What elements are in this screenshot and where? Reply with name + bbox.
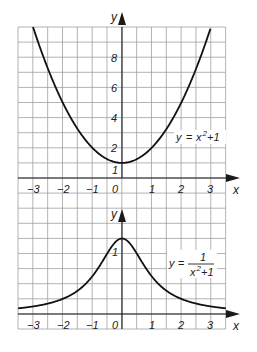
top-x-axis-arrow-icon [226, 174, 240, 182]
bottom-x-tick-m1: −1 [86, 319, 99, 331]
bottom-x-tick-3: 3 [207, 319, 214, 331]
bottom-y-tick-1: 1 [112, 246, 118, 258]
bottom-x-tick-0: 0 [112, 319, 119, 331]
top-y-tick-4: 4 [111, 112, 117, 124]
top-function-label: y = x 2 +1 [174, 129, 226, 144]
bottom-x-axis-arrow-icon [226, 310, 240, 318]
top-x-tick-0: 0 [112, 183, 119, 195]
bottom-y-axis-arrow-icon [118, 209, 126, 222]
bottom-fn-eq: = [178, 257, 184, 269]
bottom-fn-den-rest: +1 [201, 266, 214, 278]
top-fn-eq: = [186, 131, 192, 143]
top-y-tick-1: 1 [112, 164, 118, 176]
top-x-tick-3: 3 [207, 183, 214, 195]
top-chart: y x 8 6 4 2 1 −3 −2 −1 0 1 2 3 y = x 2 +… [18, 10, 240, 197]
bottom-fn-den-x: x [189, 266, 196, 278]
top-x-tick-1: 1 [149, 183, 155, 195]
top-x-tick-m2: −2 [57, 183, 70, 195]
bottom-x-tick-2: 2 [177, 319, 184, 331]
function-graphs-figure: y x 8 6 4 2 1 −3 −2 −1 0 1 2 3 y = x 2 +… [0, 0, 257, 352]
bottom-y-axis-label: y [110, 207, 118, 221]
top-x-tick-m3: −3 [27, 183, 40, 195]
top-y-axis-label: y [110, 10, 118, 24]
bottom-function-label: y = 1 x 2 +1 [167, 250, 217, 278]
top-x-axis-label: x [232, 183, 240, 197]
bottom-x-tick-1: 1 [149, 319, 155, 331]
bottom-x-tick-m3: −3 [27, 319, 40, 331]
bottom-x-tick-m2: −2 [57, 319, 70, 331]
top-x-tick-m1: −1 [86, 183, 99, 195]
top-y-axis-arrow-icon [118, 12, 126, 25]
top-fn-x: x [195, 131, 202, 143]
bottom-chart: y x 1 −3 −2 −1 0 1 2 3 y = 1 x 2 +1 [18, 207, 240, 333]
top-fn-rest: +1 [207, 131, 220, 143]
top-y-tick-2: 2 [110, 142, 117, 154]
top-y-tick-6: 6 [111, 82, 118, 94]
bottom-fn-num: 1 [200, 251, 206, 263]
top-y-tick-8: 8 [111, 52, 118, 64]
bottom-x-axis-label: x [232, 319, 240, 333]
top-x-tick-2: 2 [177, 183, 184, 195]
